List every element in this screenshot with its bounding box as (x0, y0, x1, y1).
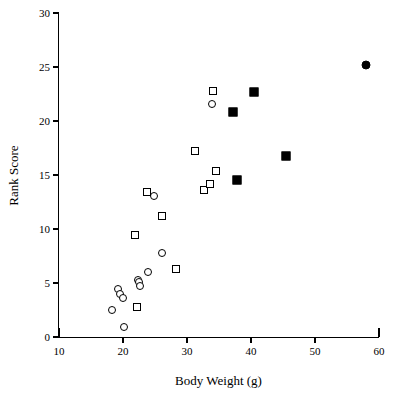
y-tick-mark (53, 174, 59, 176)
y-axis-title: Rank Score (6, 13, 22, 338)
y-tick-mark (53, 12, 59, 14)
data-point-filled-square (229, 108, 238, 117)
y-tick-mark (53, 228, 59, 230)
x-tick-mark (250, 337, 252, 343)
y-tick-label: 10 (39, 224, 50, 235)
x-tick-label: 10 (54, 346, 65, 357)
y-tick-label: 25 (39, 62, 50, 73)
x-tick-mark (186, 337, 188, 343)
data-point-open-square (172, 265, 180, 273)
x-tick-label: 50 (310, 346, 321, 357)
scatter-chart-figure: 051015202530102030405060 Body Weight (g)… (0, 0, 397, 403)
y-tick-mark (53, 282, 59, 284)
data-point-open-square (212, 167, 220, 175)
data-point-open-circle (144, 268, 152, 276)
x-tick-label: 40 (246, 346, 257, 357)
y-tick-label: 20 (39, 116, 50, 127)
data-point-open-square (143, 188, 151, 196)
x-tick-label: 60 (374, 346, 385, 357)
data-point-open-circle (120, 323, 128, 331)
x-tick-mark (378, 328, 380, 337)
data-point-open-square (133, 303, 141, 311)
data-point-filled-square (232, 176, 241, 185)
x-tick-mark (314, 337, 316, 343)
data-point-open-circle (208, 100, 216, 108)
y-tick-label: 0 (45, 332, 51, 343)
data-point-open-square (131, 231, 139, 239)
data-point-open-square (191, 147, 199, 155)
x-tick-mark (122, 337, 124, 343)
data-point-open-circle (108, 306, 116, 314)
data-point-open-circle (158, 249, 166, 257)
y-tick-mark (53, 66, 59, 68)
data-point-open-square (158, 212, 166, 220)
data-point-filled-square (281, 151, 290, 160)
x-tick-mark (58, 328, 60, 337)
x-tick-label: 20 (118, 346, 129, 357)
plot-area: 051015202530102030405060 (58, 13, 379, 338)
y-tick-mark (53, 120, 59, 122)
y-tick-label: 30 (39, 8, 50, 19)
data-point-open-square (206, 180, 214, 188)
data-point-open-circle (119, 294, 127, 302)
data-point-open-circle (150, 192, 158, 200)
data-point-open-circle (136, 282, 144, 290)
x-axis-title: Body Weight (g) (58, 373, 379, 389)
data-point-filled-square (250, 87, 259, 96)
y-tick-label: 15 (39, 170, 50, 181)
y-tick-label: 5 (45, 278, 51, 289)
x-tick-label: 30 (182, 346, 193, 357)
data-point-open-square (209, 87, 217, 95)
data-point-filled-circle (362, 60, 371, 69)
